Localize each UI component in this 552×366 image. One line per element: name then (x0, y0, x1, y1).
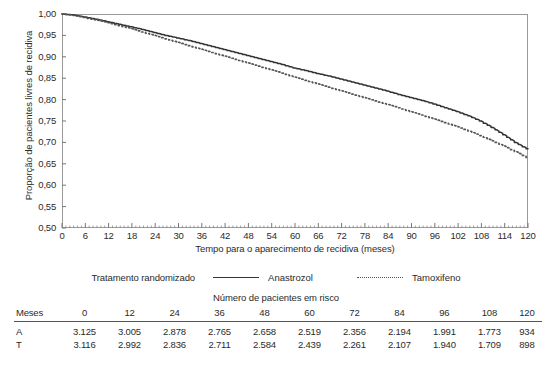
y-tick-label: 0,70 (4, 136, 56, 148)
table-header-cell: 96 (422, 306, 467, 322)
table-cell: 1.991 (422, 322, 467, 339)
table-cell: 2.439 (287, 338, 332, 351)
table-header-cell: 72 (332, 306, 377, 322)
table-cell: 2.836 (152, 338, 197, 351)
legend-title: Tratamento randomizado (91, 272, 195, 283)
table-row-label: T (14, 338, 62, 351)
solid-line-icon (213, 277, 259, 278)
numbers-at-risk-table: Meses 01224364860728496108120 A3.1253.00… (14, 306, 542, 351)
chart-legend: Tratamento randomizado Anastrozol Tamoxi… (0, 268, 552, 286)
dotted-line-icon (357, 277, 403, 278)
table-row-label: A (14, 322, 62, 339)
table-cell: 2.261 (332, 338, 377, 351)
table-header-cell: 48 (242, 306, 287, 322)
table-cell: 2.194 (377, 322, 422, 339)
table-header-cell: 0 (62, 306, 107, 322)
x-tick-label: 120 (513, 230, 543, 242)
table-cell: 2.519 (287, 322, 332, 339)
table-cell: 2.878 (152, 322, 197, 339)
table-row: T3.1162.9922.8362.7112.5842.4392.2612.10… (14, 338, 542, 351)
table-cell: 3.125 (62, 322, 107, 339)
table-row: A3.1253.0052.8782.7652.6582.5192.3562.19… (14, 322, 542, 339)
table-cell: 3.116 (62, 338, 107, 351)
table-header-row: Meses 01224364860728496108120 (14, 306, 542, 322)
table-cell: 898 (512, 338, 542, 351)
table-cell: 2.711 (197, 338, 242, 351)
y-tick-label: 0,65 (4, 158, 56, 170)
risk-table-title: Número de pacientes em risco (0, 292, 552, 303)
figure-root: Proporção de pacientes livres de recidiv… (0, 0, 552, 366)
table-header-cell: 24 (152, 306, 197, 322)
table-cell: 2.584 (242, 338, 287, 351)
table-header-meses: Meses (14, 306, 62, 322)
y-tick-label: 0,75 (4, 115, 56, 127)
curve-tamoxifeno (62, 14, 528, 157)
axis-ticks (62, 14, 528, 228)
chart-svg (0, 0, 552, 262)
table-cell: 1.940 (422, 338, 467, 351)
table-cell: 1.773 (467, 322, 512, 339)
legend-label-anastrozol: Anastrozol (268, 272, 313, 283)
table-header-cell: 120 (512, 306, 542, 322)
y-tick-label: 0,90 (4, 51, 56, 63)
table-cell: 2.356 (332, 322, 377, 339)
table-header-cell: 60 (287, 306, 332, 322)
table-cell: 2.992 (107, 338, 152, 351)
legend-item-tamoxifeno: Tamoxifeno (357, 272, 461, 283)
survival-chart: Proporção de pacientes livres de recidiv… (0, 0, 552, 262)
table-cell: 1.709 (467, 338, 512, 351)
table-header-cell: 36 (197, 306, 242, 322)
legend-label-tamoxifeno: Tamoxifeno (412, 272, 461, 283)
table-header-cell: 12 (107, 306, 152, 322)
table-cell: 2.658 (242, 322, 287, 339)
y-tick-label: 0,95 (4, 29, 56, 41)
y-tick-label: 0,80 (4, 94, 56, 106)
table-header-cell: 84 (377, 306, 422, 322)
y-tick-label: 1,00 (4, 8, 56, 20)
legend-item-anastrozol: Anastrozol (213, 272, 313, 283)
table-cell: 2.107 (377, 338, 422, 351)
table-cell: 3.005 (107, 322, 152, 339)
curve-anastrozol (62, 14, 528, 149)
table-cell: 2.765 (197, 322, 242, 339)
risk-table-section: Número de pacientes em risco Meses 01224… (0, 292, 552, 366)
y-tick-label: 0,85 (4, 72, 56, 84)
y-tick-label: 0,55 (4, 201, 56, 213)
table-header-cell: 108 (467, 306, 512, 322)
y-tick-label: 0,60 (4, 179, 56, 191)
curve-layer (62, 14, 528, 157)
x-axis-label: Tempo para o aparecimento de recidiva (m… (62, 243, 528, 254)
table-cell: 934 (512, 322, 542, 339)
